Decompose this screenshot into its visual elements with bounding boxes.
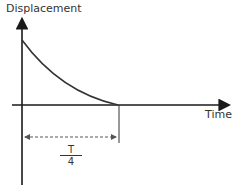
displacement-curve [22,40,118,105]
diagram-canvas [0,0,237,191]
y-axis-label: Displacement [6,2,82,15]
interval-numerator: T [60,144,82,156]
interval-label: T 4 [60,144,82,168]
interval-denominator: 4 [60,156,82,168]
x-axis-label: Time [205,108,232,121]
